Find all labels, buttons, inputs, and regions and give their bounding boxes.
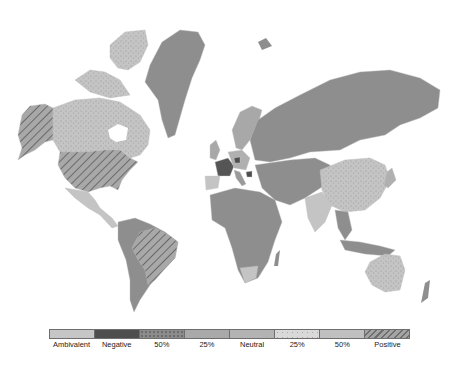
- legend-swatch-positive-25: [275, 330, 320, 338]
- legend-label-ambivalent: Ambivalent: [49, 340, 94, 349]
- region-south-africa: [240, 266, 258, 283]
- region-italy: [234, 170, 246, 186]
- legend-swatch-negative-25: [185, 330, 230, 338]
- region-eastern-europe-dark: [234, 157, 240, 163]
- legend-labels: Ambivalent Negative 50% 25% Neutral 25% …: [49, 340, 410, 349]
- legend-label-positive: Positive: [365, 340, 410, 349]
- world-map: [0, 0, 459, 320]
- legend-swatches: [49, 329, 410, 339]
- legend-swatch-negative: [95, 330, 140, 338]
- region-canada-arctic: [110, 30, 148, 70]
- region-uk: [210, 140, 220, 160]
- region-madagascar: [274, 250, 280, 266]
- legend: Ambivalent Negative 50% 25% Neutral 25% …: [49, 329, 410, 353]
- legend-swatch-neutral: [230, 330, 275, 338]
- region-balkans-dark: [246, 171, 252, 177]
- region-russia: [250, 70, 440, 162]
- legend-label-negative: Negative: [94, 340, 139, 349]
- region-mexico: [65, 188, 118, 228]
- legend-swatch-ambivalent: [50, 330, 95, 338]
- region-greenland: [145, 30, 205, 138]
- region-usa: [58, 150, 138, 192]
- legend-label-neutral: Neutral: [230, 340, 275, 349]
- legend-swatch-positive: [365, 330, 409, 338]
- legend-label-positive-25: 25%: [275, 340, 320, 349]
- legend-swatch-positive-50: [320, 330, 365, 338]
- region-canada-arctic-2: [75, 70, 130, 98]
- region-alaska: [18, 104, 53, 160]
- region-new-zealand: [421, 280, 430, 303]
- legend-swatch-negative-50: [140, 330, 185, 338]
- legend-label-negative-50: 50%: [139, 340, 184, 349]
- region-indonesia: [340, 240, 395, 256]
- region-svalbard: [258, 38, 272, 50]
- region-iberia: [205, 176, 220, 190]
- legend-label-positive-50: 50%: [320, 340, 365, 349]
- region-southeast-asia: [335, 210, 352, 240]
- region-australia: [365, 254, 405, 292]
- legend-label-negative-25: 25%: [184, 340, 229, 349]
- region-canada: [53, 98, 150, 158]
